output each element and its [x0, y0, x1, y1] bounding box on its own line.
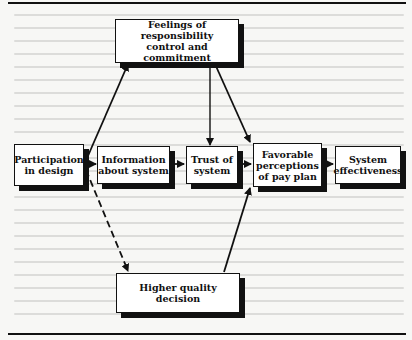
node-label-line: Trust of [191, 154, 233, 165]
node-label-line: control and commitment [116, 41, 238, 63]
node-label-line: perceptions [256, 160, 319, 171]
node-label-line: Information [98, 154, 168, 165]
node-label-line: Feelings of responsibility [116, 19, 238, 41]
node-feelings: Feelings of responsibilitycontrol and co… [115, 19, 239, 63]
node-trust: Trust ofsystem [186, 146, 238, 184]
node-label-line: Higher quality [139, 282, 216, 293]
node-label-line: in design [14, 165, 83, 176]
edge-participation-quality [86, 170, 128, 271]
edge-quality-favorable [224, 188, 250, 272]
node-label-line: of pay plan [256, 171, 319, 182]
node-label-line: Favorable [256, 149, 319, 160]
node-label-line: about system [98, 165, 168, 176]
node-label-line: system [191, 165, 233, 176]
node-favorable: Favorableperceptionsof pay plan [253, 143, 322, 187]
node-label-line: Participation [14, 154, 83, 165]
node-effectiveness: Systemeffectiveness [335, 146, 401, 184]
edge-feelings-favorable [215, 64, 250, 142]
node-information: Informationabout system [97, 146, 170, 184]
node-quality: Higher qualitydecision [116, 273, 240, 313]
node-label-line: decision [139, 293, 216, 304]
node-label-line: System [334, 154, 403, 165]
node-label-line: effectiveness [334, 165, 403, 176]
node-participation: Participationin design [14, 144, 84, 186]
